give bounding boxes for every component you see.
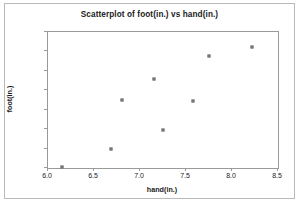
data-point	[152, 77, 155, 80]
x-tick-label: 8.0	[216, 172, 246, 179]
data-point	[192, 100, 195, 103]
data-point	[208, 55, 211, 58]
data-point	[251, 45, 254, 48]
data-point	[109, 147, 112, 150]
x-tick-label: 6.0	[32, 172, 62, 179]
x-tick-label: 8.5	[262, 172, 292, 179]
scatterplot-figure: Scatterplot of foot(in.) vs hand(in.) fo…	[0, 0, 299, 204]
plot-area	[47, 31, 279, 169]
x-axis-title: hand(in.)	[47, 185, 277, 194]
data-point	[162, 129, 165, 132]
data-point	[60, 166, 63, 169]
x-tick-label: 7.0	[124, 172, 154, 179]
data-point	[120, 99, 123, 102]
chart-title: Scatterplot of foot(in.) vs hand(in.)	[0, 10, 299, 19]
x-tick-label: 6.5	[78, 172, 108, 179]
x-tick-label: 7.5	[170, 172, 200, 179]
y-axis-title: foot(in.)	[5, 86, 14, 113]
